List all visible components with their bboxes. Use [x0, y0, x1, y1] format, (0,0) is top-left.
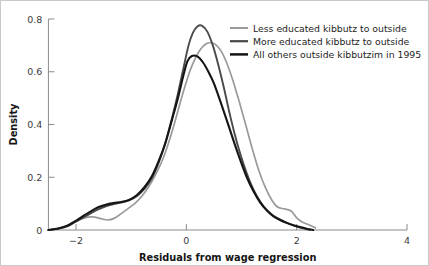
- x-tick-label: 4: [404, 235, 410, 246]
- y-tick-label: 0.4: [27, 119, 42, 130]
- x-tick-label: 0: [183, 235, 189, 246]
- chart-legend: Less educated kibbutz to outsideMore edu…: [230, 23, 421, 60]
- y-tick-label: 0.2: [27, 172, 42, 183]
- x-axis-ticks: −2024: [69, 224, 410, 246]
- x-tick-label: −2: [69, 235, 83, 246]
- legend-label: Less educated kibbutz to outside: [253, 23, 407, 34]
- density-plot-figure: −2024 00.20.40.60.8 Less educated kibbut…: [0, 0, 429, 266]
- x-tick-label: 2: [294, 235, 300, 246]
- y-axis-ticks: 00.20.40.60.8: [27, 14, 54, 236]
- y-tick-label: 0.6: [27, 66, 42, 77]
- x-axis-title: Residuals from wage regression: [139, 252, 316, 263]
- y-tick-label: 0.8: [27, 14, 42, 25]
- legend-label: More educated kibbutz to outside: [253, 36, 410, 47]
- legend-label: All others outside kibbutzim in 1995: [253, 49, 421, 60]
- y-tick-label: 0: [36, 225, 42, 236]
- y-axis-title: Density: [8, 103, 19, 146]
- chart-canvas: −2024 00.20.40.60.8 Less educated kibbut…: [1, 1, 429, 266]
